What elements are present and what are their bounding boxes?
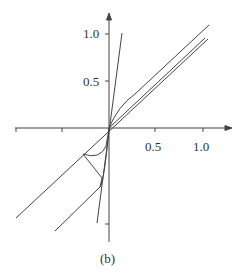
y-tick-label-05: 0.5 [83, 74, 99, 89]
x-tick-label-05: 0.5 [145, 139, 161, 154]
chart: 1.0 0.5 0.5 1.0 (b) [0, 0, 237, 278]
lower-line [55, 38, 205, 231]
upper-curve [109, 25, 209, 128]
caption: (b) [100, 251, 115, 266]
x-axis-arrow-icon [225, 126, 232, 131]
x-tick-label-1: 1.0 [193, 139, 209, 154]
zigzag-connector [83, 154, 102, 187]
y-tick-label-1: 1.0 [83, 26, 99, 41]
y-axis-arrow-icon [107, 13, 112, 20]
